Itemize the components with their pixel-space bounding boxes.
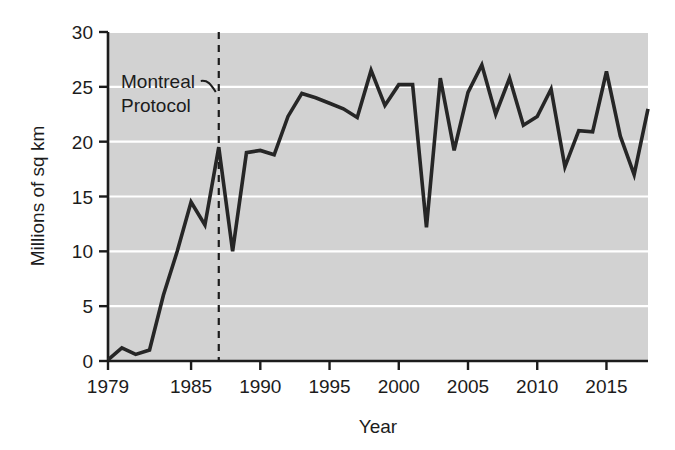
x-tick-label-1985: 1985 (170, 376, 212, 397)
x-axis-title: Year (359, 416, 398, 437)
y-tick-label-15: 15 (72, 187, 93, 208)
x-tick-label-2000: 2000 (378, 376, 420, 397)
y-tick-label-0: 0 (82, 351, 93, 372)
x-tick-label-1990: 1990 (239, 376, 281, 397)
x-tick-label-1979: 1979 (87, 376, 129, 397)
x-axis-tick-labels: 19791985199019952000200520102015 (87, 376, 628, 397)
y-tick-label-20: 20 (72, 132, 93, 153)
y-tick-label-30: 30 (72, 22, 93, 43)
x-tick-label-2010: 2010 (516, 376, 558, 397)
montreal-protocol-label-line2: Protocol (121, 95, 191, 116)
x-tick-label-1995: 1995 (308, 376, 350, 397)
y-axis-ticks (99, 32, 108, 361)
y-axis-title: Millions of sq km (27, 126, 48, 266)
y-tick-label-25: 25 (72, 77, 93, 98)
x-tick-label-2005: 2005 (447, 376, 489, 397)
montreal-protocol-label-line1: Montreal (121, 71, 195, 92)
y-tick-label-5: 5 (82, 296, 93, 317)
x-tick-label-2015: 2015 (585, 376, 627, 397)
ozone-hole-line-chart: 051015202530 197919851990199520002005201… (0, 0, 675, 450)
x-axis-ticks (108, 361, 606, 370)
y-tick-label-10: 10 (72, 241, 93, 262)
chart-figure: 051015202530 197919851990199520002005201… (0, 0, 675, 450)
y-axis-tick-labels: 051015202530 (72, 22, 93, 372)
